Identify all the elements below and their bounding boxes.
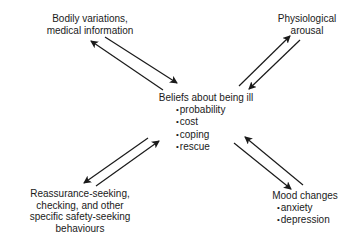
arrow-beliefs-to-bodily <box>91 41 163 90</box>
arrow-beliefs-to-reassure <box>84 138 148 183</box>
node-safety-seeking-behaviours: Reassurance-seeking, checking, and other… <box>10 188 150 234</box>
arrow-bodily-to-beliefs <box>105 37 177 83</box>
node-line: Physiological <box>262 13 352 25</box>
node-line: behaviours <box>10 223 150 235</box>
node-title: Mood changes <box>255 190 355 202</box>
node-line: Reassurance-seeking, <box>10 188 150 200</box>
bullet-item: cost <box>176 116 266 129</box>
bullet-item: probability <box>176 104 266 117</box>
bullet-list: anxiety depression <box>277 202 355 227</box>
bullet-item: coping <box>176 129 266 142</box>
bullet-item: anxiety <box>277 202 355 215</box>
bullet-item: depression <box>277 214 355 227</box>
node-mood-changes: Mood changes anxiety depression <box>255 190 355 227</box>
node-physiological-arousal: Physiological arousal <box>262 13 352 36</box>
node-line: medical information <box>25 25 155 37</box>
bullet-item: rescue <box>176 141 266 154</box>
arrow-physio-to-beliefs <box>249 40 300 89</box>
node-beliefs-about-being-ill: Beliefs about being ill probability cost… <box>146 92 266 154</box>
node-bodily-variations: Bodily variations, medical information <box>25 13 155 36</box>
node-title: Beliefs about being ill <box>146 92 266 104</box>
node-line: specific safety-seeking <box>10 211 150 223</box>
arrow-beliefs-to-physio <box>239 36 290 86</box>
node-line: arousal <box>262 25 352 37</box>
bullet-list: probability cost coping rescue <box>176 104 266 154</box>
node-line: Bodily variations, <box>25 13 155 25</box>
node-line: checking, and other <box>10 200 150 212</box>
